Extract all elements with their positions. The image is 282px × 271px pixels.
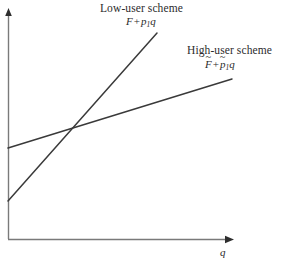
low-user-scheme-line [8, 33, 157, 201]
high-user-scheme-line [8, 79, 232, 148]
low-formula-variable: q [150, 15, 156, 27]
quantity-axis-label: q [220, 246, 226, 258]
price-axis-arrowhead [5, 8, 12, 16]
low-formula-intercept: F [126, 15, 133, 27]
low-user-scheme-title: Low-user scheme [100, 2, 183, 14]
low-formula-operator: + [133, 15, 141, 27]
high-user-scheme-formula: ~F+~p1q [205, 58, 235, 72]
high-formula-operator: + [212, 58, 220, 70]
tilde-accent-icon-2: ~ [220, 52, 226, 62]
high-formula-slope-group: ~p [220, 58, 226, 70]
low-user-scheme-formula: F+p1q [126, 15, 156, 29]
two-part-tariff-figure: Low-user scheme F+p1q High-user scheme ~… [0, 0, 282, 271]
high-user-scheme-title: High-user scheme [187, 44, 272, 56]
high-formula-intercept-group: ~F [205, 58, 212, 70]
figure-canvas [0, 0, 282, 271]
quantity-axis-arrowhead [225, 236, 234, 243]
high-formula-variable: q [229, 58, 235, 70]
tilde-accent-icon: ~ [205, 52, 211, 62]
